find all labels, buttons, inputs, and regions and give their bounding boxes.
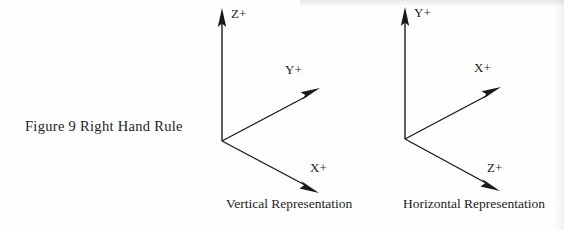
axis-label-up-right: X+ xyxy=(474,60,491,76)
axes-drawing-horizontal xyxy=(378,0,558,200)
axis-arrow-down-right xyxy=(222,141,319,193)
diagram-caption-vertical: Vertical Representation xyxy=(226,196,352,212)
axis-arrow-down-right xyxy=(405,139,500,191)
axis-label-up-right: Y+ xyxy=(285,62,302,78)
axis-label-up: Y+ xyxy=(414,5,431,21)
figure-page: Figure 9 Right Hand Rule Z+ Y+ X+ Vertic xyxy=(0,0,564,230)
diagram-caption-horizontal: Horizontal Representation xyxy=(403,196,545,212)
axis-label-down-right: Z+ xyxy=(487,160,502,176)
axis-label-down-right: X+ xyxy=(310,160,327,176)
axis-arrow-up-right xyxy=(405,87,501,139)
diagram-vertical-representation: Z+ Y+ X+ Vertical Representation xyxy=(195,0,375,230)
figure-caption: Figure 9 Right Hand Rule xyxy=(25,118,183,135)
axes-drawing-vertical xyxy=(195,0,375,200)
axis-arrow-up-right xyxy=(222,88,320,141)
axis-label-up: Z+ xyxy=(231,6,246,22)
axis-arrow-up xyxy=(218,8,226,141)
diagram-horizontal-representation: Y+ X+ Z+ Horizontal Representation xyxy=(378,0,558,230)
axis-arrow-up xyxy=(401,7,409,139)
